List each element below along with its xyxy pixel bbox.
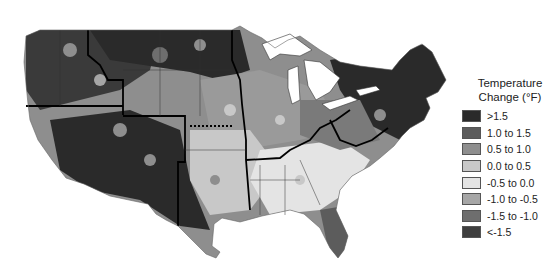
legend-swatch xyxy=(462,110,481,122)
legend-label: -1.0 to -0.5 xyxy=(487,193,538,205)
legend-item: -1.5 to -1.0 xyxy=(462,208,558,225)
legend-swatch xyxy=(462,193,481,205)
legend-swatch xyxy=(462,143,481,155)
legend-item: 0.0 to 0.5 xyxy=(462,158,558,175)
map-fill xyxy=(0,0,460,268)
legend-title-line1: Temperature xyxy=(462,76,558,90)
legend-label: -0.5 to 0.0 xyxy=(487,177,534,189)
legend-item: -0.5 to 0.0 xyxy=(462,174,558,191)
legend-item: <-1.5 xyxy=(462,224,558,241)
legend-title-line2: Change (°F) xyxy=(462,90,558,104)
legend-item: >1.5 xyxy=(462,108,558,125)
legend-swatch xyxy=(462,226,481,238)
legend-item: 0.5 to 1.0 xyxy=(462,141,558,158)
legend-swatch xyxy=(462,127,481,139)
legend-swatch xyxy=(462,160,481,172)
legend-swatch xyxy=(462,210,481,222)
legend-label: >1.5 xyxy=(487,110,508,122)
legend-label: 0.0 to 0.5 xyxy=(487,160,531,172)
legend: Temperature Change (°F) >1.5 1.0 to 1.5 … xyxy=(462,76,558,241)
legend-item: -1.0 to -0.5 xyxy=(462,191,558,208)
legend-label: 1.0 to 1.5 xyxy=(487,127,531,139)
legend-label: 0.5 to 1.0 xyxy=(487,143,531,155)
legend-title: Temperature Change (°F) xyxy=(462,76,558,104)
legend-item: 1.0 to 1.5 xyxy=(462,125,558,142)
legend-label: <-1.5 xyxy=(487,226,511,238)
legend-swatch xyxy=(462,177,481,189)
legend-label: -1.5 to -1.0 xyxy=(487,210,538,222)
